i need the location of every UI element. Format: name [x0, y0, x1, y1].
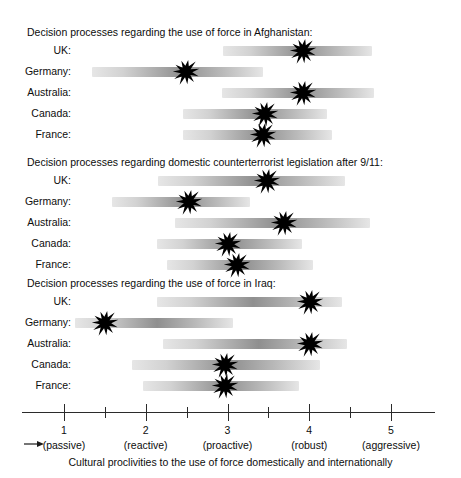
- row-label-canada: Canada:: [0, 237, 71, 250]
- chart-row: Australia:: [0, 84, 461, 102]
- marker-star-icon: [252, 166, 282, 196]
- marker-star-icon: [174, 187, 204, 217]
- marker-star-icon: [295, 287, 325, 317]
- chart-row: UK:: [0, 42, 461, 60]
- chart-row: France:: [0, 256, 461, 274]
- axis-tick-major: [64, 404, 65, 421]
- row-label-uk: UK:: [0, 44, 71, 57]
- axis-tick-label: 1: [44, 424, 84, 436]
- row-label-canada: Canada:: [0, 107, 71, 120]
- row-label-australia: Australia:: [0, 337, 71, 350]
- marker-star-icon: [295, 329, 325, 359]
- axis-tick-major: [309, 404, 310, 421]
- row-label-germany: Germany:: [0, 195, 71, 208]
- chart-row: Germany:: [0, 63, 461, 81]
- row-label-uk: UK:: [0, 295, 71, 308]
- row-label-australia: Australia:: [0, 86, 71, 99]
- chart-row: Canada:: [0, 105, 461, 123]
- marker-star-icon: [248, 120, 278, 150]
- row-label-germany: Germany:: [0, 316, 71, 329]
- figure-root: Decision processes regarding the use of …: [0, 0, 461, 478]
- row-label-australia: Australia:: [0, 216, 71, 229]
- axis-tick-major: [228, 404, 229, 421]
- axis-tick-minor: [350, 407, 351, 418]
- panel-title: Decision processes regarding domestic co…: [27, 156, 383, 168]
- marker-star-icon: [171, 57, 201, 87]
- row-label-germany: Germany:: [0, 65, 71, 78]
- row-label-france: France:: [0, 128, 71, 141]
- marker-star-icon: [288, 36, 318, 66]
- marker-star-icon: [288, 78, 318, 108]
- axis-line: [22, 412, 435, 413]
- axis-tick-minor: [105, 407, 106, 418]
- row-label-france: France:: [0, 379, 71, 392]
- chart-row: France:: [0, 377, 461, 395]
- row-label-france: France:: [0, 258, 71, 271]
- marker-star-icon: [210, 371, 240, 401]
- chart-row: Germany:: [0, 193, 461, 211]
- marker-star-icon: [222, 250, 252, 280]
- axis-caption: Cultural proclivities to the use of forc…: [0, 456, 461, 468]
- chart-row: UK:: [0, 293, 461, 311]
- axis-tick-label: 2: [126, 424, 166, 436]
- chart-row: Germany:: [0, 314, 461, 332]
- chart-row: UK:: [0, 172, 461, 190]
- chart-row: France:: [0, 126, 461, 144]
- axis-tick-minor: [187, 407, 188, 418]
- axis-tick-minor: [268, 407, 269, 418]
- marker-star-icon: [90, 308, 120, 338]
- axis-tick-label: 4: [289, 424, 329, 436]
- axis-tick-major: [391, 404, 392, 421]
- axis-tick-label: 3: [208, 424, 248, 436]
- panel-title: Decision processes regarding the use of …: [27, 277, 276, 289]
- axis-tick-label: 5: [371, 424, 411, 436]
- panel-title: Decision processes regarding the use of …: [27, 26, 312, 38]
- x-axis: 1(passive)2(reactive)3(proactive)4(robus…: [0, 398, 461, 478]
- axis-tick-major: [146, 404, 147, 421]
- row-label-canada: Canada:: [0, 358, 71, 371]
- row-label-uk: UK:: [0, 174, 71, 187]
- marker-star-icon: [269, 208, 299, 238]
- axis-tick-descriptor: (aggressive): [336, 439, 446, 451]
